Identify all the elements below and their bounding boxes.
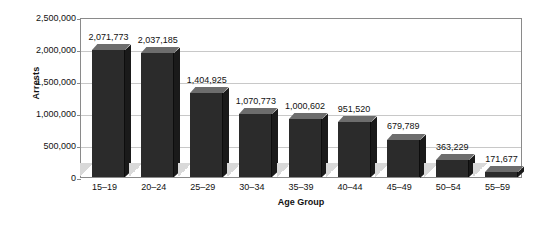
x-axis-tick-label: 40–44	[326, 182, 375, 192]
y-axis-tickmark	[77, 179, 81, 180]
y-axis-tick-label: 500,000	[10, 142, 76, 151]
bar-front-face	[239, 114, 272, 177]
y-axis-tick-label: 1,500,000	[10, 78, 76, 87]
bar-front-face	[485, 172, 518, 177]
bar-side-face	[174, 47, 180, 177]
x-axis-title: Age Group	[80, 197, 522, 207]
bar	[338, 122, 371, 177]
bar-front-face	[141, 53, 174, 177]
bar-value-label: 951,520	[325, 105, 384, 114]
bar-value-label: 2,037,185	[128, 36, 187, 45]
x-axis-tick-label: 45–49	[375, 182, 424, 192]
bar-front-face	[92, 50, 125, 177]
x-axis-tick-label: 20–24	[129, 182, 178, 192]
bar	[436, 160, 469, 177]
bar-value-label: 1,404,925	[177, 76, 236, 85]
bar-front-face	[289, 119, 322, 177]
x-axis-tick-label: 15–19	[80, 182, 129, 192]
x-axis-tick-label: 25–29	[178, 182, 227, 192]
x-axis-tick-label: 55–59	[473, 182, 522, 192]
bar	[289, 119, 322, 177]
bar	[239, 114, 272, 177]
x-axis-tick-label: 30–34	[227, 182, 276, 192]
y-axis-tick-labels: 2,500,000 2,000,000 1,500,000 1,000,000 …	[10, 0, 76, 233]
bar-value-label: 363,229	[423, 143, 482, 152]
bar-front-face	[436, 160, 469, 177]
bar-front-face	[338, 122, 371, 177]
y-axis-tick-label: 2,000,000	[10, 46, 76, 55]
bar-value-label: 171,677	[472, 155, 531, 164]
bar	[141, 53, 174, 177]
bar	[190, 93, 223, 177]
bar	[92, 50, 125, 177]
bar	[485, 172, 518, 177]
bar-front-face	[387, 140, 420, 178]
bar	[387, 140, 420, 178]
bar-side-face	[125, 45, 131, 177]
y-axis-tick-label: 1,000,000	[10, 110, 76, 119]
x-axis-tick-label: 50–54	[424, 182, 473, 192]
x-axis-tick-labels: 15–1920–2425–2930–3435–3940–4445–4950–54…	[80, 182, 522, 196]
y-axis-tick-label: 2,500,000	[10, 14, 76, 23]
y-axis-tick-label: 0	[10, 174, 76, 183]
x-axis-tick-label: 35–39	[276, 182, 325, 192]
bar-value-label: 679,789	[374, 122, 433, 131]
bar-front-face	[190, 93, 223, 177]
bar-chart: Arrests 2,500,000 2,000,000 1,500,000 1,…	[0, 0, 547, 233]
